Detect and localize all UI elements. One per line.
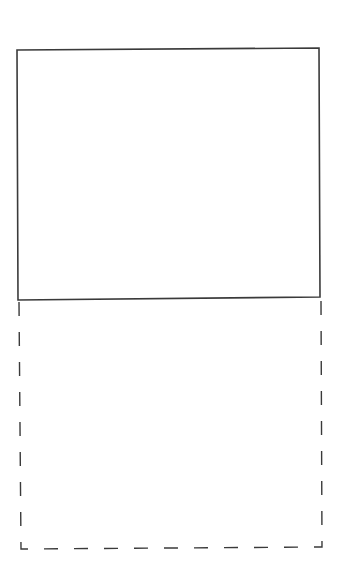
background [0, 0, 342, 585]
diagram-canvas [0, 0, 342, 585]
